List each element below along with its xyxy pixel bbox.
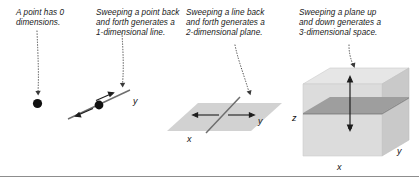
axis-label-cube-x: x [337,162,342,172]
bottom-divider [0,176,419,177]
plane-surface [167,103,282,131]
axis-label-line-y: y [133,96,138,106]
axis-label-cube-y: y [397,146,402,156]
leader-arrowhead-line [120,83,125,88]
axis-label-plane-y: y [258,116,263,126]
leader-line-line [122,33,123,84]
point-dot [33,99,42,108]
leader-arrowhead-space [350,63,355,68]
diagram-artwork [0,0,419,183]
leader-line-point [37,31,38,92]
cube-sweep-origin-dot [348,126,352,130]
dimensions-figure: A point has 0 dimensions. Sweeping a poi… [0,0,419,183]
cube-front-face [303,84,382,156]
sweep-arrows-line [75,92,113,117]
leader-arrowhead-plane [247,90,252,95]
leader-arrowhead-point [35,91,40,96]
axis-label-plane-x: x [187,134,192,144]
line-point-dot [95,101,104,110]
axis-label-cube-z: z [292,113,297,123]
leader-line-plane [235,45,249,92]
leader-line-space [349,45,353,65]
